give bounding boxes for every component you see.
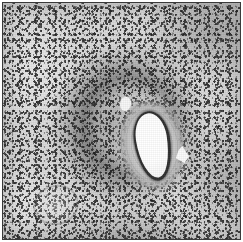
figure-caption bbox=[0, 0, 1, 1]
micrograph-canvas bbox=[3, 3, 240, 239]
micrograph-figure bbox=[0, 0, 243, 242]
micrograph-frame bbox=[2, 2, 241, 240]
secondary-vessel-ring bbox=[29, 180, 83, 230]
